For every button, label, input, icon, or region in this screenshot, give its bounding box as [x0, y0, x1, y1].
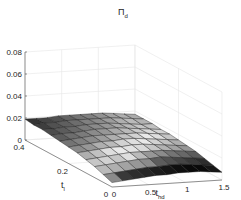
y-tick-label: 0.4 [13, 143, 25, 152]
z-tick-label: 0.04 [6, 92, 22, 101]
y-tick-label: 0.2 [57, 167, 69, 176]
y-axis-label: tl [61, 180, 65, 192]
x-axis-line [112, 180, 222, 187]
z-gridline [25, 67, 222, 114]
surface-mesh [25, 113, 222, 183]
chart-title: Πd [118, 7, 128, 19]
x-axis-label: thd [155, 188, 164, 200]
surface-plot: 00.020.040.060.0800.511.500.20.4 Πd thd … [0, 0, 241, 200]
x-tick-label: 1 [185, 185, 190, 194]
z-tick-label: 0.02 [6, 114, 22, 123]
z-tick-label: 0.06 [6, 70, 22, 79]
z-tick-label: 0.08 [6, 48, 22, 57]
y-tick-label: 0 [104, 190, 109, 199]
x-tick-label: 0 [112, 190, 117, 199]
z-gridline [25, 45, 222, 92]
x-tick-label: 1.5 [218, 183, 230, 192]
